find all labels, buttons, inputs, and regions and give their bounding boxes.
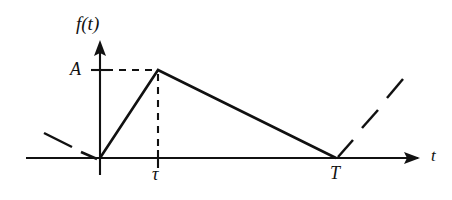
- amplitude-tick-label: A: [70, 60, 81, 78]
- left-continuation-dash-segment-1: [44, 133, 72, 147]
- right-continuation-dash-segment-3: [387, 79, 403, 98]
- tau-tick-label: τ: [152, 165, 158, 183]
- waveform-polyline: [100, 70, 336, 158]
- f-axis-group: [94, 40, 106, 175]
- left-continuation-dash: [44, 133, 97, 159]
- waveform-figure: f(t) A τ T t: [0, 0, 452, 200]
- right-continuation-dash-segment-2: [362, 110, 378, 128]
- right-continuation-dash: [338, 79, 403, 157]
- right-continuation-dash-segment-1: [338, 140, 353, 157]
- waveform-drawing: [0, 0, 452, 200]
- period-tick-label: T: [330, 164, 340, 182]
- t-axis-label: t: [431, 147, 436, 164]
- f-of-t-axis-label: f(t): [76, 14, 99, 33]
